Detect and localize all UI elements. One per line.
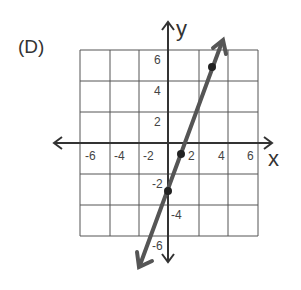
x-axis-label: x: [268, 146, 279, 171]
svg-text:-2: -2: [152, 177, 163, 191]
svg-text:6: 6: [154, 53, 161, 67]
svg-text:-4: -4: [171, 208, 182, 222]
svg-text:-2: -2: [143, 149, 154, 163]
svg-text:-6: -6: [152, 239, 163, 253]
axes: [54, 22, 272, 262]
y-axis-label: y: [176, 16, 187, 41]
svg-text:2: 2: [154, 115, 161, 129]
svg-text:6: 6: [247, 149, 254, 163]
svg-text:-4: -4: [114, 149, 125, 163]
svg-text:4: 4: [218, 149, 225, 163]
coordinate-plane: y x -6 -4 -2 2 4 6 6 4 2 -2 -4 -6: [0, 0, 301, 290]
svg-text:4: 4: [154, 84, 161, 98]
svg-text:-6: -6: [85, 149, 96, 163]
svg-text:2: 2: [188, 149, 195, 163]
